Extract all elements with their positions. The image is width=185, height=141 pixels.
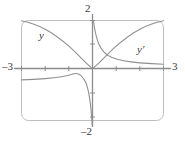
curve-y-left-branch (22, 21, 93, 69)
curve-yprime-negative-branch (22, 74, 93, 125)
curve-label-y-prime: y′ (137, 44, 144, 55)
x-axis-min-label: –3 (2, 61, 13, 72)
y-axis-max-label: 2 (85, 3, 91, 14)
curve-label-y: y (39, 30, 44, 41)
x-axis-max-label: 3 (172, 61, 178, 72)
y-axis-min-label: –2 (81, 126, 92, 137)
plot-canvas (0, 0, 185, 141)
graph-figure: 2 –2 –3 3 y y′ (0, 0, 185, 141)
